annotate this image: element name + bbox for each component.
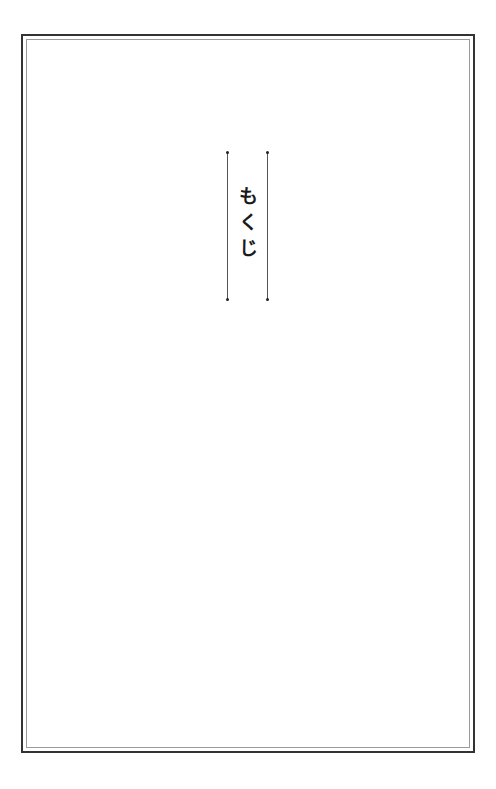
rule-right-bottom-dot bbox=[266, 298, 269, 301]
rule-right-top-dot bbox=[266, 151, 269, 154]
page-title: もくじ bbox=[237, 186, 257, 264]
page-border-inner bbox=[26, 39, 470, 748]
title-rule-left bbox=[227, 152, 228, 299]
rule-left-top-dot bbox=[226, 151, 229, 154]
rule-left-bottom-dot bbox=[226, 298, 229, 301]
title-rule-right bbox=[267, 152, 268, 299]
